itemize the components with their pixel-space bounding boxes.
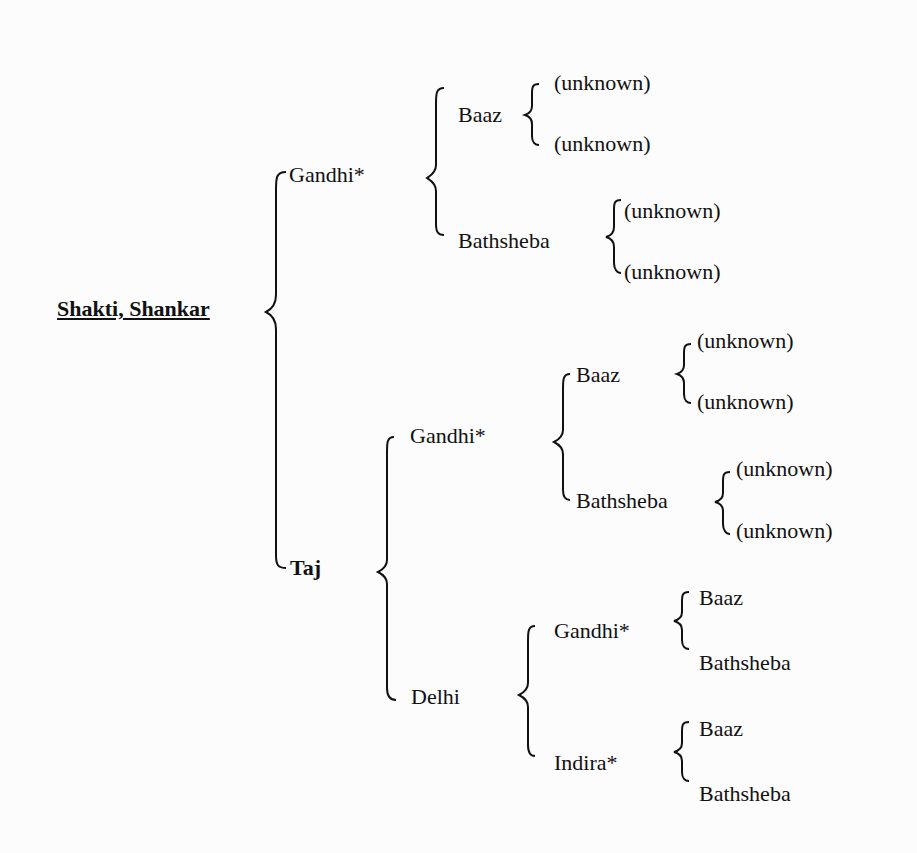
ancestor-name: Baaz (699, 587, 743, 609)
ancestor-name: Baaz (699, 718, 743, 740)
sire-name: Gandhi* (289, 164, 365, 186)
dam-dam-dam-name: Indira* (554, 752, 618, 774)
ancestor-unknown: (unknown) (624, 200, 721, 222)
dam-name: Taj (290, 557, 321, 579)
ancestor-unknown: (unknown) (736, 520, 833, 542)
root-name: Shakti, Shankar (57, 298, 210, 320)
dam-dam-sire-name: Gandhi* (554, 620, 630, 642)
dam-sire-name: Gandhi* (410, 425, 486, 447)
dam-dam-name: Delhi (411, 686, 460, 708)
dam-sire-sire-name: Baaz (576, 364, 620, 386)
ancestor-unknown: (unknown) (697, 391, 794, 413)
ancestor-unknown: (unknown) (554, 133, 651, 155)
ancestor-name: Bathsheba (699, 783, 791, 805)
ancestor-name: Bathsheba (699, 652, 791, 674)
ancestor-unknown: (unknown) (697, 330, 794, 352)
ancestor-unknown: (unknown) (736, 458, 833, 480)
ancestor-unknown: (unknown) (554, 72, 651, 94)
dam-sire-dam-name: Bathsheba (576, 490, 668, 512)
ancestor-unknown: (unknown) (624, 261, 721, 283)
sire-sire-name: Baaz (458, 104, 502, 126)
sire-dam-name: Bathsheba (458, 230, 550, 252)
